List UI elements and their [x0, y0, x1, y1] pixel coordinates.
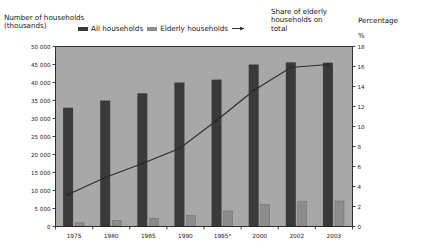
right-tick-label: 10	[358, 124, 366, 130]
line-marker-point	[67, 193, 70, 196]
x-tick-label: 2000	[252, 233, 267, 239]
left-tick-label: 45 000	[31, 62, 51, 68]
left-tick-label: 35 000	[31, 98, 51, 104]
left-tick-label: 15 000	[31, 170, 51, 176]
bar-all-households	[63, 108, 73, 227]
bar-elderly-households	[112, 220, 121, 226]
x-tick-label: 1990	[178, 233, 193, 239]
line-marker-point	[252, 89, 255, 92]
bar-elderly-households	[75, 223, 84, 227]
left-axis-ticks: 05 00010 00015 00020 00025 00030 00035 0…	[31, 44, 56, 230]
x-tick-label: 2003	[327, 233, 342, 239]
bar-all-households	[100, 101, 110, 227]
right-tick-label: 0	[358, 224, 362, 230]
x-tick-label: 1980	[104, 233, 119, 239]
line-marker-point	[290, 66, 293, 69]
bar-elderly-households	[149, 218, 158, 226]
right-tick-label: 16	[358, 64, 366, 70]
right-tick-label: 14	[358, 84, 366, 90]
right-tick-label: 12	[358, 104, 365, 110]
left-tick-label: 50 000	[31, 44, 51, 50]
right-axis-ticks: 024681012141618	[353, 44, 366, 230]
x-tick-label: 2002	[289, 233, 304, 239]
line-marker-point	[104, 176, 107, 179]
left-tick-label: 10 000	[31, 188, 51, 194]
line-marker-point	[178, 147, 181, 150]
bar-elderly-households	[186, 215, 195, 226]
x-tick-label: 1975	[67, 233, 82, 239]
plot-background	[56, 47, 353, 227]
right-tick-label: 18	[358, 44, 366, 50]
left-tick-label: 40 000	[31, 80, 51, 86]
bar-all-households	[137, 93, 147, 226]
x-axis-ticks: 19751980198519901995*200020022003	[56, 227, 353, 239]
plot-bg-rect	[56, 47, 353, 227]
bar-all-households	[323, 63, 333, 227]
left-tick-label: 0	[47, 224, 51, 230]
bar-elderly-households	[335, 201, 344, 227]
x-tick-label: 1985	[141, 233, 156, 239]
bar-all-households	[286, 62, 296, 226]
line-marker-point	[141, 162, 144, 165]
right-tick-label: 2	[358, 204, 362, 210]
bar-elderly-households	[261, 205, 270, 227]
bar-elderly-households	[298, 202, 307, 227]
right-tick-label: 8	[358, 144, 362, 150]
chart-figure: Number of households (thousands) Share o…	[0, 0, 421, 251]
plot-area: 05 00010 00015 00020 00025 00030 00035 0…	[0, 0, 421, 251]
left-tick-label: 20 000	[31, 152, 51, 158]
line-marker-point	[215, 119, 218, 122]
bar-elderly-households	[224, 211, 233, 226]
right-tick-label: 4	[358, 184, 362, 190]
bar-all-households	[174, 83, 184, 227]
bar-all-households	[212, 80, 222, 227]
left-tick-label: 25 000	[31, 134, 51, 140]
left-tick-label: 30 000	[31, 116, 51, 122]
x-tick-label: 1995*	[214, 233, 232, 239]
line-marker-point	[327, 63, 330, 66]
right-tick-label: 6	[358, 164, 362, 170]
left-tick-label: 5 000	[34, 206, 50, 212]
